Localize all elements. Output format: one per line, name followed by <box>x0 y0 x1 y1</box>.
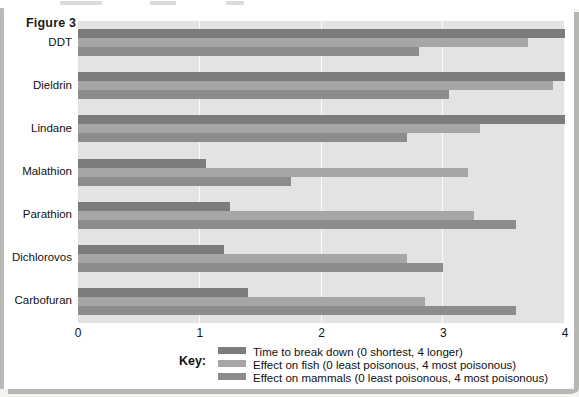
bar-carbofuran-mammals <box>78 306 516 315</box>
key-label: Key: <box>152 354 206 368</box>
chart-legend: Key: Time to break down (0 shortest, 4 l… <box>152 342 572 386</box>
bar-parathion-fish <box>78 211 474 220</box>
x-tick-4: 4 <box>562 326 569 340</box>
legend-item-0: Time to break down (0 shortest, 4 longer… <box>218 342 463 356</box>
bar-dichlorovos-mammals <box>78 263 443 272</box>
bar-lindane-mammals <box>78 133 407 142</box>
bar-group-dichlorovos <box>78 245 565 272</box>
legend-item-2: Effect on mammals (0 least poisonous, 4 … <box>218 368 548 382</box>
plot-area <box>78 21 565 323</box>
bar-chart: DDTDieldrinLindaneMalathionParathionDich… <box>4 8 574 389</box>
bar-dieldrin-fish <box>78 81 553 90</box>
scanned-page: Figure 3 DDTDieldrinLindaneMalathionPara… <box>0 0 579 397</box>
bar-lindane-time <box>78 115 565 124</box>
legend-item-1: Effect on fish (0 least poisonous, 4 mos… <box>218 355 516 369</box>
bar-malathion-time <box>78 159 206 168</box>
y-axis-label-parathion: Parathion <box>0 208 72 220</box>
y-axis-label-dichlorovos: Dichlorovos <box>0 251 72 263</box>
bar-dieldrin-time <box>78 72 565 81</box>
bar-group-lindane <box>78 115 565 142</box>
bar-group-malathion <box>78 159 565 186</box>
x-tick-2: 2 <box>318 326 325 340</box>
bar-parathion-time <box>78 202 230 211</box>
y-axis-label-lindane: Lindane <box>0 122 72 134</box>
y-axis-label-dieldrin: Dieldrin <box>0 79 72 91</box>
bar-group-parathion <box>78 202 565 229</box>
bar-ddt-mammals <box>78 47 419 56</box>
legend-label-2: Effect on mammals (0 least poisonous, 4 … <box>253 372 548 384</box>
bar-carbofuran-time <box>78 288 248 297</box>
legend-swatch-2 <box>218 373 246 380</box>
figure-card: Figure 3 DDTDieldrinLindaneMalathionPara… <box>4 8 574 389</box>
bar-group-ddt <box>78 29 565 56</box>
bar-group-carbofuran <box>78 288 565 315</box>
legend-swatch-0 <box>218 347 246 354</box>
x-tick-0: 0 <box>75 326 82 340</box>
bar-dichlorovos-fish <box>78 254 407 263</box>
y-axis-category-labels: DDTDieldrinLindaneMalathionParathionDich… <box>4 21 72 323</box>
bar-ddt-fish <box>78 38 528 47</box>
y-axis-label-malathion: Malathion <box>0 165 72 177</box>
bar-lindane-fish <box>78 124 480 133</box>
legend-swatch-1 <box>218 360 246 367</box>
y-axis-label-ddt: DDT <box>0 36 72 48</box>
x-tick-3: 3 <box>440 326 447 340</box>
bar-parathion-mammals <box>78 220 516 229</box>
page-shadow-bottom <box>8 389 576 394</box>
y-axis-label-carbofuran: Carbofuran <box>0 294 72 306</box>
x-tick-1: 1 <box>196 326 203 340</box>
bar-ddt-time <box>78 29 565 38</box>
bar-malathion-mammals <box>78 177 291 186</box>
bar-carbofuran-fish <box>78 297 425 306</box>
bar-group-dieldrin <box>78 72 565 99</box>
bar-dichlorovos-time <box>78 245 224 254</box>
bar-malathion-fish <box>78 168 468 177</box>
bar-dieldrin-mammals <box>78 90 449 99</box>
